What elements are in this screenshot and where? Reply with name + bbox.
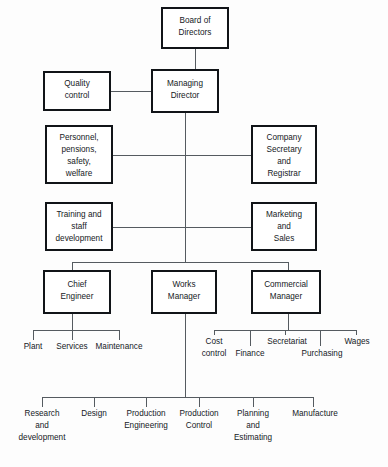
leaf-maintenance[interactable]: Maintenance [96,342,143,351]
node-label-works-manager-line-1: Manager [168,292,201,301]
leaf-label-maintenance: Maintenance [96,342,143,351]
node-board-of-directors[interactable]: Board of Directors [162,8,228,48]
node-label-personnel-line-2: safety, [67,157,91,166]
leaf-label-production-engineering-line-1: Engineering [124,421,168,430]
leaf-design[interactable]: Design [81,409,107,418]
leaf-layer: Plant Services Maintenance Cost control … [19,337,370,442]
node-chief-engineer[interactable]: Chief Engineer [44,271,110,313]
node-label-board-of-directors-line-1: Directors [179,28,212,37]
node-label-company-secretary-line-2: and [277,157,291,166]
node-works-manager[interactable]: Works Manager [152,271,216,313]
node-label-personnel-line-1: pensions, [61,145,96,154]
node-label-marketing-line-2: Sales [274,234,294,243]
node-label-training-line-0: Training and [56,210,102,219]
leaf-label-research-line-2: development [19,433,67,442]
leaf-label-production-control-line-1: Control [186,421,213,430]
leaf-label-plant: Plant [24,342,43,351]
node-managing-director[interactable]: Managing Director [152,70,218,112]
leaf-label-production-engineering-line-0: Production [126,409,166,418]
leaf-label-finance: Finance [235,349,265,358]
leaf-label-purchasing: Purchasing [302,349,343,358]
leaf-label-research-line-1: and [35,421,49,430]
leaf-production-control[interactable]: Production Control [179,409,219,430]
node-label-company-secretary-line-3: Registrar [267,169,300,178]
node-label-managing-director-line-1: Director [171,91,200,100]
node-layer: Board of Directors Managing Director Qua… [44,8,320,313]
node-label-quality-control-line-0: Quality [64,79,90,88]
leaf-services[interactable]: Services [56,342,87,351]
leaf-label-planning-line-0: Planning [237,409,269,418]
node-company-secretary-and-registrar[interactable]: Company Secretary and Registrar [252,126,316,183]
node-label-chief-engineer-line-0: Chief [67,280,87,289]
node-marketing-and-sales[interactable]: Marketing and Sales [252,203,316,250]
leaf-label-wages: Wages [344,337,369,346]
node-label-marketing-line-1: and [277,222,291,231]
node-label-training-line-1: staff [71,222,87,231]
node-label-managing-director-line-0: Managing [167,79,203,88]
node-label-commercial-manager-line-0: Commercial [264,280,308,289]
leaf-label-planning-line-2: Estimating [234,433,273,442]
leaf-label-research-line-0: Research [24,409,59,418]
node-label-company-secretary-line-0: Company [266,133,302,142]
leaf-research-and-development[interactable]: Research and development [19,409,67,442]
node-training-and-staff-development[interactable]: Training and staff development [46,203,112,250]
node-label-commercial-manager-line-1: Manager [270,292,303,301]
leaf-wages[interactable]: Wages [344,337,369,346]
leaf-label-services: Services [56,342,87,351]
leaf-label-production-control-line-0: Production [179,409,219,418]
node-label-chief-engineer-line-1: Engineer [61,292,94,301]
node-label-personnel-line-3: welfare [65,169,93,178]
leaf-purchasing[interactable]: Purchasing [302,349,343,358]
org-chart-svg: Board of Directors Managing Director Qua… [0,0,388,467]
node-personnel-pensions-safety-welfare[interactable]: Personnel, pensions, safety, welfare [46,126,112,183]
node-label-company-secretary-line-1: Secretary [266,145,302,154]
node-label-training-line-2: development [56,234,104,243]
leaf-label-planning-line-1: and [246,421,260,430]
node-commercial-manager[interactable]: Commercial Manager [252,271,320,313]
leaf-finance[interactable]: Finance [235,349,265,358]
leaf-label-cost-control-line-0: Cost [206,337,224,346]
leaf-secretariat[interactable]: Secretariat [267,337,307,346]
leaf-label-design: Design [81,409,107,418]
node-label-marketing-line-0: Marketing [266,210,302,219]
org-chart-canvas: Board of Directors Managing Director Qua… [0,0,388,467]
leaf-cost-control[interactable]: Cost control [202,337,227,358]
node-label-board-of-directors-line-0: Board of [180,16,212,25]
node-quality-control[interactable]: Quality control [44,72,110,110]
leaf-label-secretariat: Secretariat [267,337,307,346]
leaf-plant[interactable]: Plant [24,342,43,351]
leaf-manufacture[interactable]: Manufacture [292,409,338,418]
node-label-quality-control-line-1: control [65,91,90,100]
leaf-label-manufacture: Manufacture [292,409,338,418]
leaf-planning-and-estimating[interactable]: Planning and Estimating [234,409,273,442]
node-label-personnel-line-0: Personnel, [59,133,98,142]
node-label-works-manager-line-0: Works [172,280,195,289]
leaf-production-engineering[interactable]: Production Engineering [124,409,168,430]
leaf-label-cost-control-line-1: control [202,349,227,358]
